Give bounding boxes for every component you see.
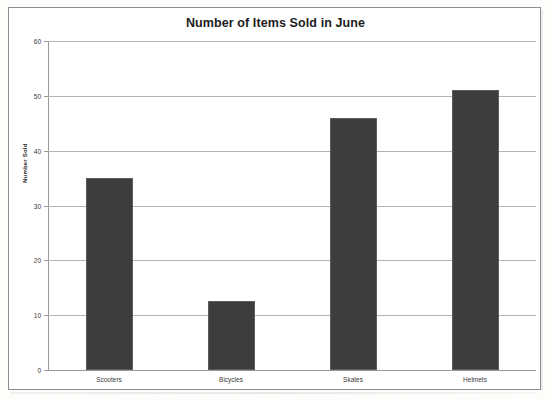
y-axis-tick-mark (44, 370, 48, 371)
chart-frame: Number of Items Sold in June Number Sold… (8, 7, 541, 390)
bar (208, 301, 255, 370)
y-axis-tick-label: 0 (37, 367, 41, 374)
chart-title: Number of Items Sold in June (9, 16, 542, 30)
y-axis-tick-label: 60 (34, 38, 41, 45)
x-axis-category-label: Bicycles (219, 376, 243, 383)
y-axis-tick-label: 10 (34, 312, 41, 319)
scan-edge-artifact-right (541, 10, 543, 391)
gridline (48, 41, 536, 42)
y-axis-tick-label: 40 (34, 147, 41, 154)
y-axis-tick-label: 20 (34, 257, 41, 264)
y-axis-tick-label: 30 (34, 202, 41, 209)
scanned-page-background: Number of Items Sold in June Number Sold… (0, 0, 553, 401)
y-axis-tick-label: 50 (34, 92, 41, 99)
y-axis-tick-mark (44, 41, 48, 42)
y-axis-tick-mark (44, 151, 48, 152)
bar (86, 178, 133, 370)
bar (452, 90, 499, 370)
bar (330, 118, 377, 370)
y-axis-tick-mark (44, 96, 48, 97)
y-axis-tick-mark (44, 315, 48, 316)
plot-area: 0102030405060 ScootersBicyclesSkatesHelm… (48, 41, 536, 370)
y-axis-title: Number Sold (22, 143, 28, 183)
scan-edge-artifact-bottom (10, 392, 538, 394)
x-axis-category-label: Skates (343, 376, 363, 383)
x-axis-category-label: Helmets (463, 376, 487, 383)
x-axis-baseline (48, 370, 536, 371)
y-axis-tick-mark (44, 260, 48, 261)
x-axis-category-label: Scooters (96, 376, 122, 383)
y-axis-tick-mark (44, 206, 48, 207)
